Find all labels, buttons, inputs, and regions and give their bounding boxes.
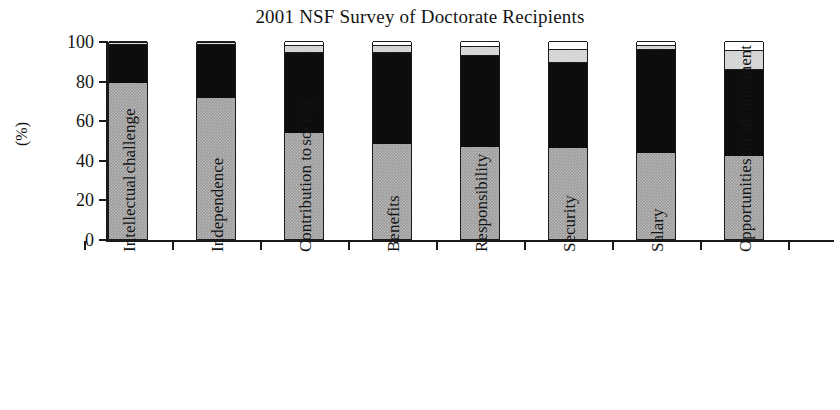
category-label-line: Salary: [648, 209, 668, 252]
category-label-line: Security: [560, 195, 580, 252]
category-label-4: Responsibility: [472, 102, 516, 252]
x-tick-7: [700, 241, 702, 250]
category-label-line: advancement: [736, 45, 756, 135]
category-label-line: challenge: [120, 108, 140, 173]
y-tick-80: [99, 81, 107, 83]
chart-figure: 2001 NSF Survey of Doctorate Recipients …: [0, 0, 840, 410]
category-label-line: Intellectual: [120, 176, 140, 252]
category-label-5: Security: [560, 102, 604, 252]
category-label-1: Independence: [208, 102, 252, 252]
category-label-line: Opportunities: [736, 159, 756, 253]
bar-segment-3: [461, 46, 499, 55]
bar-segment-3: [373, 45, 411, 52]
y-tick-100: [99, 41, 107, 43]
y-tick-40: [99, 160, 107, 162]
y-tick-label-60: 60: [34, 112, 94, 130]
x-tick-0: [84, 241, 86, 250]
y-tick-60: [99, 120, 107, 122]
bar-segment-4: [197, 41, 235, 42]
category-label-line: Independence: [208, 158, 228, 252]
bar-segment-4: [373, 41, 411, 45]
bar-segment-4: [285, 41, 323, 45]
x-tick-5: [524, 241, 526, 250]
category-label-line: for: [736, 137, 756, 157]
bar-segment-4: [549, 41, 587, 49]
x-tick-8: [788, 241, 790, 250]
category-label-2: Contribution tosociety: [296, 102, 340, 252]
bar-segment-4: [461, 41, 499, 46]
x-tick-6: [612, 241, 614, 250]
x-tick-2: [260, 241, 262, 250]
x-tick-3: [348, 241, 350, 250]
y-tick-label-100: 100: [34, 33, 94, 51]
bar-segment-2: [197, 44, 235, 98]
category-label-6: Salary: [648, 102, 692, 252]
bar-segment-3: [285, 45, 323, 52]
bar-segment-3: [637, 45, 675, 49]
category-label-line: Responsibility: [472, 154, 492, 252]
category-label-0: Intellectualchallenge: [120, 102, 164, 252]
bar-segment-4: [637, 41, 675, 45]
category-label-7: Opportunitiesforadvancement: [736, 102, 780, 252]
y-tick-20: [99, 199, 107, 201]
y-tick-label-80: 80: [34, 73, 94, 91]
bar-segment-3: [549, 49, 587, 62]
x-tick-4: [436, 241, 438, 250]
y-tick-label-20: 20: [34, 191, 94, 209]
category-label-line: Contribution to: [296, 148, 316, 252]
bar-segment-4: [109, 41, 147, 42]
y-tick-0: [99, 239, 107, 241]
y-tick-label-40: 40: [34, 152, 94, 170]
bar-segment-2: [109, 44, 147, 83]
x-tick-1: [172, 241, 174, 250]
bar-segment-3: [197, 42, 235, 44]
bar-segment-3: [109, 42, 147, 44]
y-axis-title: (%): [13, 104, 31, 164]
category-label-line: Benefits: [384, 195, 404, 252]
category-label-line: society: [296, 97, 316, 145]
chart-title: 2001 NSF Survey of Doctorate Recipients: [0, 6, 840, 28]
category-label-3: Benefits: [384, 102, 428, 252]
